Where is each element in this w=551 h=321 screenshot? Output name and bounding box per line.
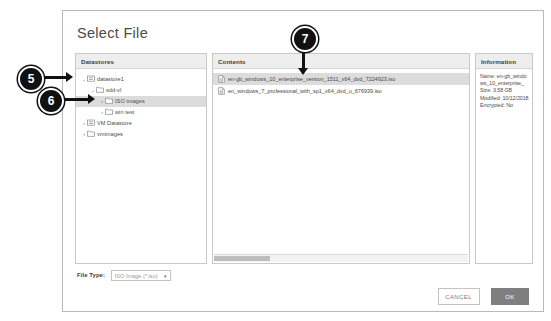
info-line: Encrypted: No (480, 102, 529, 109)
callout-badge-7: 7 (292, 26, 318, 52)
datastore-icon (87, 75, 95, 82)
datastore-tree: ⌄datastore1⌄sdd-vl›ISO images›win test›V… (76, 69, 206, 140)
file-information-list: Name: en-gb_windows_10_enterprise_Size: … (476, 69, 532, 109)
file-list: en-gb_windows_10_enterprise_version_1511… (213, 69, 469, 97)
info-line: Name: en-gb_windows_10_enterprise_ (480, 73, 529, 87)
chevron-down-icon: ▾ (164, 271, 167, 282)
tree-item-iso-images[interactable]: ›ISO images (76, 96, 206, 107)
folder-icon (105, 108, 113, 115)
file-list-item[interactable]: en-gb_windows_10_enterprise_version_1511… (213, 73, 469, 85)
dialog-title: Select File (77, 25, 148, 41)
contents-panel-header: Contents (213, 54, 469, 69)
scrollbar-thumb[interactable] (214, 256, 270, 261)
information-panel: Information Name: en-gb_windows_10_enter… (475, 53, 533, 264)
ok-button[interactable]: OK (491, 288, 529, 305)
file-type-value: ISO Image (*.iso) (115, 273, 158, 279)
info-line: Modified: 10/12/2018, 08:42:01 (480, 95, 529, 102)
callout-5-arrow-head (66, 72, 73, 82)
tree-item-label: sdd-vl (106, 87, 121, 93)
callout-badge-5: 5 (18, 66, 44, 92)
file-name: en-gb_windows_10_enterprise_version_1511… (228, 76, 395, 82)
tree-item-label: ISO images (115, 98, 145, 104)
tree-item-label: vmimages (97, 131, 123, 137)
tree-item-label: win test (115, 109, 134, 115)
tree-item-label: datastore1 (97, 76, 124, 82)
file-type-row: File Type: ISO Image (*.iso) ▾ (77, 269, 171, 281)
contents-panel: Contents en-gb_windows_10_enterprise_ver… (212, 53, 470, 264)
folder-icon (87, 130, 95, 137)
file-name: en_windows_7_professional_with_sp1_x64_d… (228, 88, 382, 94)
contents-panel-body[interactable]: en-gb_windows_10_enterprise_version_1511… (213, 69, 469, 263)
cancel-button[interactable]: CANCEL (438, 288, 480, 305)
information-panel-header: Information (476, 54, 532, 69)
folder-icon (96, 86, 104, 93)
file-type-label: File Type: (77, 269, 105, 281)
callout-6-arrow-head (88, 94, 95, 104)
iso-file-icon (218, 75, 225, 83)
information-panel-body: Name: en-gb_windows_10_enterprise_Size: … (476, 69, 532, 263)
folder-icon (105, 97, 113, 104)
iso-file-icon (218, 87, 225, 95)
datastores-panel-header: Datastores (76, 54, 206, 69)
datastore-icon (87, 119, 95, 126)
dialog-button-bar: CANCEL OK (438, 288, 529, 305)
screenshot-root: Select File Datastores ⌄datastore1⌄sdd-v… (0, 0, 551, 321)
tree-item-sdd-vl[interactable]: ⌄sdd-vl (76, 85, 206, 96)
horizontal-scrollbar[interactable] (214, 254, 468, 262)
callout-7-arrow-head (298, 68, 308, 75)
file-list-item[interactable]: en_windows_7_professional_with_sp1_x64_d… (213, 85, 469, 97)
datastores-panel: Datastores ⌄datastore1⌄sdd-vl›ISO images… (75, 53, 207, 264)
callout-badge-6: 6 (38, 88, 64, 114)
datastores-panel-body[interactable]: ⌄datastore1⌄sdd-vl›ISO images›win test›V… (76, 69, 206, 263)
file-type-select[interactable]: ISO Image (*.iso) ▾ (111, 270, 171, 281)
tree-item-label: VM Datastore (97, 120, 132, 126)
tree-item-datastore1[interactable]: ⌄datastore1 (76, 74, 206, 85)
info-line: Size: 3.58 GB (480, 87, 529, 94)
tree-item-win-test[interactable]: ›win test (76, 107, 206, 118)
tree-item-vmimages[interactable]: ›vmimages (76, 129, 206, 140)
tree-item-vm-datastore[interactable]: ›VM Datastore (76, 118, 206, 129)
